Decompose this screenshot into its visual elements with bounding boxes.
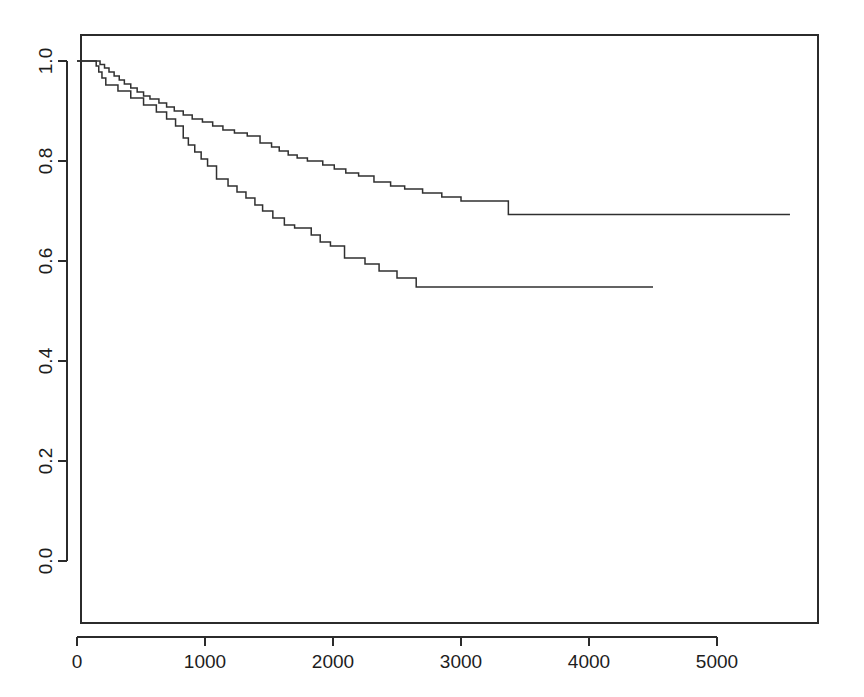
y-tick-label: 0.2 <box>35 448 56 474</box>
y-tick-label: 0.8 <box>35 148 56 174</box>
x-tick-label: 5000 <box>696 651 738 672</box>
y-tick-label: 0.4 <box>35 347 56 374</box>
kaplan-meier-chart: 0.00.20.40.60.81.0 010002000300040005000 <box>0 0 864 697</box>
x-tick-label: 4000 <box>568 651 610 672</box>
chart-background <box>0 0 864 697</box>
y-tick-label: 1.0 <box>35 48 56 74</box>
x-tick-label: 1000 <box>184 651 226 672</box>
x-tick-label: 3000 <box>440 651 482 672</box>
y-tick-label: 0.0 <box>35 548 56 574</box>
x-tick-label: 0 <box>72 651 83 672</box>
x-tick-label: 2000 <box>312 651 354 672</box>
survival-plot-figure: 0.00.20.40.60.81.0 010002000300040005000 <box>0 0 864 697</box>
y-tick-label: 0.6 <box>35 248 56 274</box>
